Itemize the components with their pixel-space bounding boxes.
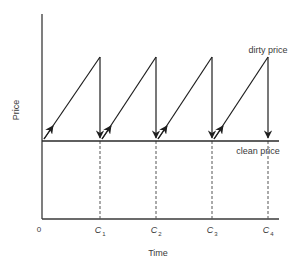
origin-label: 0 xyxy=(37,225,42,234)
x-tick-c2: C 2 xyxy=(151,225,163,237)
x-tick-c1: C 1 xyxy=(95,225,107,237)
clean-price-label: clean price xyxy=(236,146,280,156)
x-tick-c4: C 4 xyxy=(263,225,275,237)
svg-text:C: C xyxy=(207,225,214,235)
x-axis-label: Time xyxy=(148,248,168,258)
svg-text:C: C xyxy=(95,225,102,235)
dirty-price-label: dirty price xyxy=(248,45,287,55)
y-axis-label: Price xyxy=(11,100,21,121)
svg-text:4: 4 xyxy=(270,231,274,237)
svg-text:2: 2 xyxy=(158,231,162,237)
chart-canvas: dirty price clean price Price Time 0 C 1… xyxy=(0,0,294,271)
dirty-price-series xyxy=(44,57,268,139)
svg-text:3: 3 xyxy=(214,231,218,237)
svg-text:C: C xyxy=(263,225,270,235)
svg-text:C: C xyxy=(151,225,158,235)
svg-text:1: 1 xyxy=(102,231,106,237)
x-tick-c3: C 3 xyxy=(207,225,219,237)
